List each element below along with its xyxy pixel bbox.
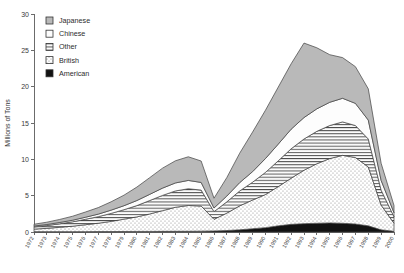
legend-swatch-japanese [46,17,53,24]
y-tick-label: 5 [25,192,29,199]
y-tick-label: 10 [21,156,29,163]
x-tick-label: 1991 [268,236,279,249]
x-tick-label: 1985 [191,236,202,249]
chart-legend: JapaneseChineseOtherBritishAmerican [46,16,90,78]
legend-label-chinese: Chinese [59,29,85,38]
x-tick-label: 1997 [345,236,356,249]
legend-swatch-chinese [46,30,53,37]
y-tick-label: 30 [21,11,29,18]
y-axis-title: Millions of Tons [4,99,11,147]
x-tick-label: 1993 [294,236,305,249]
x-tick-label: 1978 [101,236,112,249]
chart-container: 051015202530 197219731974197519761977197… [0,0,404,273]
legend-item-american[interactable]: American [46,69,89,78]
x-tick-label: 2000 [384,236,395,249]
x-tick-label: 1996 [332,236,343,249]
x-tick-label: 1984 [178,236,189,249]
y-axis: 051015202530 [21,11,34,236]
x-tick-label: 1981 [139,236,150,249]
y-tick-label: 25 [21,47,29,54]
legend-item-other[interactable]: Other [46,42,78,51]
x-tick-label: 1987 [217,236,228,249]
x-tick-label: 1986 [204,236,215,249]
x-tick-label: 1992 [281,236,292,249]
x-tick-label: 1989 [242,235,253,248]
legend-swatch-other [46,43,53,50]
x-tick-label: 1972 [24,236,35,249]
legend-label-other: Other [59,42,78,51]
x-tick-label: 1990 [255,236,266,249]
x-tick-label: 1976 [75,236,86,249]
legend-label-british: British [59,56,79,65]
x-tick-label: 1983 [165,236,176,249]
legend-label-american: American [59,69,89,78]
legend-label-japanese: Japanese [59,16,90,25]
x-tick-label: 1988 [229,236,240,249]
y-tick-label: 15 [21,120,29,127]
stacked-area-chart: 051015202530 197219731974197519761977197… [0,0,404,273]
legend-swatch-american [46,70,53,77]
x-tick-label: 1974 [49,236,60,249]
legend-item-chinese[interactable]: Chinese [46,29,85,38]
x-tick-label: 1977 [88,236,99,249]
x-tick-label: 1980 [127,236,138,249]
legend-item-british[interactable]: British [46,56,79,65]
x-tick-label: 1999 [371,236,382,249]
x-tick-label: 1982 [152,236,163,249]
x-axis: 1972197319741975197619771978197919801981… [24,232,395,249]
x-tick-label: 1998 [358,236,369,249]
legend-swatch-british [46,57,53,64]
y-tick-label: 20 [21,83,29,90]
x-tick-label: 1973 [37,236,48,249]
x-tick-label: 1975 [62,236,73,249]
x-tick-label: 1979 [114,236,125,249]
x-tick-label: 1995 [319,236,330,249]
y-tick-label: 0 [25,229,29,236]
x-tick-label: 1994 [307,236,318,249]
legend-item-japanese[interactable]: Japanese [46,16,90,25]
